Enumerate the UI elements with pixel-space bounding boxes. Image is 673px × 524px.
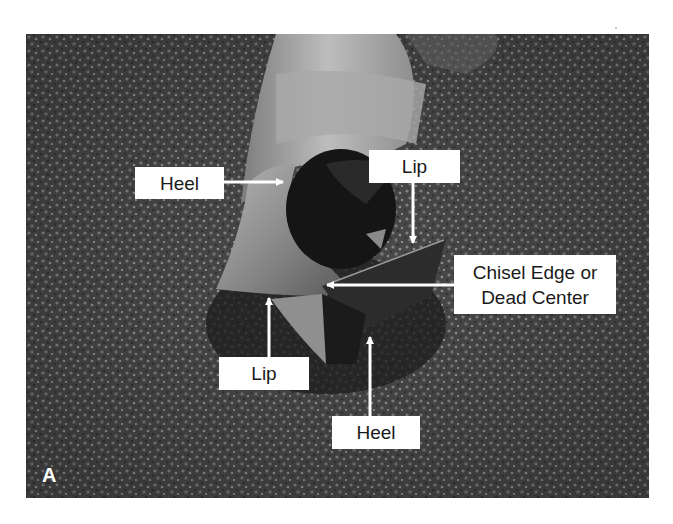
label-chisel-edge-line-1: Chisel Edge or: [473, 260, 598, 285]
label-heel-lower-text: Heel: [356, 420, 395, 445]
label-lip-upper-text: Lip: [402, 154, 427, 179]
label-chisel-edge-line-2: Dead Center: [481, 285, 589, 310]
label-lip-upper: Lip: [369, 150, 460, 183]
label-lip-lower-text: Lip: [251, 361, 276, 386]
label-heel-lower: Heel: [332, 416, 420, 449]
speck: [615, 27, 617, 29]
label-chisel-edge: Chisel Edge or Dead Center: [454, 255, 616, 314]
label-heel-upper: Heel: [135, 167, 224, 199]
label-heel-upper-text: Heel: [160, 171, 199, 196]
panel-letter: A: [42, 464, 56, 487]
figure: Heel Lip Chisel Edge or Dead Center Lip …: [0, 0, 673, 524]
label-lip-lower: Lip: [219, 357, 309, 390]
